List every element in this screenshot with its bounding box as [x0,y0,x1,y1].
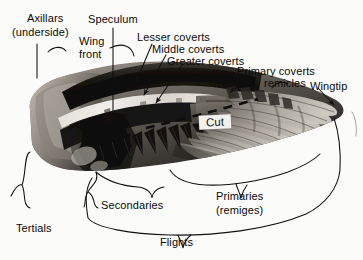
label-wing-front-line2: front [79,48,102,61]
leader-middle-coverts [144,55,166,95]
brace-tertials [11,152,30,208]
label-primaries-remiges: (remiges) [216,204,263,217]
label-cut: Cut [199,114,232,130]
label-lesser-coverts: Lesser coverts [137,31,210,44]
label-axillars-underside: (underside) [12,26,69,39]
label-speculum: Speculum [88,13,138,26]
leader-greater-coverts [156,65,182,103]
label-remicles: remicles [264,77,306,90]
brace-secondaries-span [96,172,164,198]
label-primaries: Primaries [216,190,263,203]
label-secondaries: Secondaries [101,199,163,212]
label-flights: Flights [160,236,193,249]
brace-primaries [170,154,320,185]
bracket-edge-fragment [352,112,356,136]
label-axillars: Axillars [27,12,63,25]
leader-wing-front [110,45,134,56]
label-wing-front-line1: Wing [79,35,104,48]
label-tertials: Tertials [16,222,52,235]
brace-flights [86,118,340,235]
label-wingtip: Wingtip [310,80,347,93]
leader-primary-coverts [230,78,250,92]
label-greater-coverts: Greater coverts [167,55,244,68]
label-primary-coverts: Primary coverts [237,65,315,78]
label-middle-coverts: Middle coverts [152,43,224,56]
leader-axillars-hook [48,47,66,52]
wing-anatomy-figure: Axillars (underside) Speculum Wing front… [0,0,363,260]
leader-lesser-coverts [136,44,152,82]
